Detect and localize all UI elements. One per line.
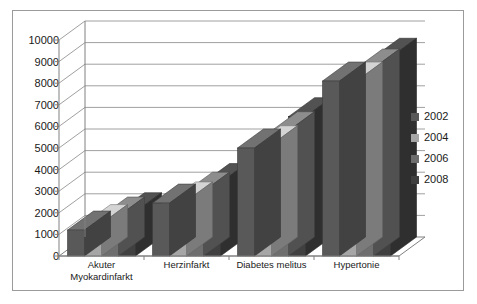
x-axis-category-labels: Akuter MyokardinfarktHerzinfarktDiabetes… <box>59 259 399 293</box>
chart-legend: 2002200420062008 <box>411 106 471 190</box>
gridline-10000 <box>59 21 425 40</box>
legend-swatch-icon-2006 <box>411 155 419 163</box>
x-axis-label-3: Hypertonie <box>314 259 399 271</box>
legend-item-2008[interactable]: 2008 <box>411 169 471 190</box>
legend-label-2006: 2006 <box>424 153 448 164</box>
chart-graphics <box>13 11 465 292</box>
x-axis-label-0: Akuter Myokardinfarkt <box>59 259 144 282</box>
legend-swatch-icon-2008 <box>411 176 419 184</box>
legend-swatch-icon-2002 <box>411 113 419 121</box>
legend-label-2008: 2008 <box>424 174 448 185</box>
chart-screenshot: 0100020003000400050006000700080009000100… <box>0 0 477 304</box>
legend-swatch-icon-2004 <box>411 134 419 142</box>
bars <box>68 38 417 256</box>
figure-frame: 0100020003000400050006000700080009000100… <box>12 10 464 291</box>
legend-item-2002[interactable]: 2002 <box>411 106 471 127</box>
legend-label-2002: 2002 <box>424 111 448 122</box>
chart-plot-area: 0100020003000400050006000700080009000100… <box>13 11 465 292</box>
x-axis-label-2: Diabetes melitus <box>229 259 314 271</box>
legend-item-2006[interactable]: 2006 <box>411 148 471 169</box>
bar-2002-2 <box>238 129 281 256</box>
bar-2002-3 <box>323 62 366 256</box>
x-axis-label-1: Herzinfarkt <box>144 259 229 271</box>
legend-item-2004[interactable]: 2004 <box>411 127 471 148</box>
legend-label-2004: 2004 <box>424 132 448 143</box>
